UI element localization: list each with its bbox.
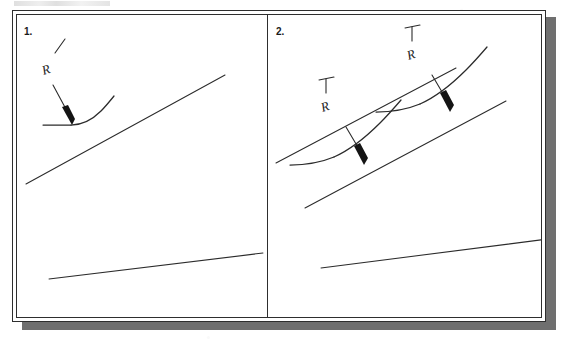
panel-2-number-label: 2. [276, 27, 284, 37]
panel-2-fillet-arc-right [420, 47, 487, 104]
panel-1-fillet-arc [71, 96, 114, 125]
panel-2-drawing [268, 15, 542, 318]
panel-1: R [17, 15, 268, 317]
panel-1-callout-leader-upper [55, 39, 65, 53]
figure-frame-outer: R [12, 10, 546, 322]
panel-2: R R [268, 15, 542, 317]
panel-1-number-label: 1. [24, 27, 32, 37]
panel-2-callout-arrowhead-left [354, 143, 368, 165]
panel-1-drawing [17, 15, 268, 318]
panel-1-callout-arrowhead [62, 105, 75, 125]
figure-frame-inner: R [16, 14, 542, 318]
panel-2-upper-parallel-line [276, 68, 456, 163]
panel-2-lower-parallel-line [305, 101, 506, 208]
scanned-figure-root: R [0, 0, 563, 341]
panel-2-fillet-curve-left [290, 157, 334, 165]
panel-1-lower-shallow-line [49, 253, 263, 279]
panel-2-fillet-curve-right [376, 104, 420, 112]
panel-2-fillet-arc-left [334, 100, 401, 157]
panel-2-callout-arrowhead-right [440, 90, 454, 112]
panel-2-lower-shallow-line [321, 239, 542, 268]
scan-artifact-header-smudge [14, 1, 110, 6]
